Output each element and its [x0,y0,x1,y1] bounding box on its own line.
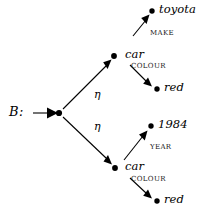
edge-label-year: YEAR [150,144,171,151]
edge-root-to-car-bottom [63,117,112,165]
node-label-car-bottom: car [125,161,144,173]
node-car-bottom [112,165,118,171]
graph-figure: B: toyota MAKE car COLOUR red η η 1984 Y… [0,0,200,219]
edge-label-colour-bottom: COLOUR [131,176,166,183]
node-red-bottom [154,198,159,203]
node-label-red-top: red [164,82,184,94]
edge-root-to-car-top [63,60,112,110]
node-label-red-bottom: red [164,194,184,206]
node-year-1984 [148,123,153,128]
node-red-top [154,86,159,91]
node-toyota [149,8,154,13]
edge-car-bottom-to-year [124,131,148,161]
edge-label-eta-bottom: η [94,121,101,132]
edge-label-eta-top: η [94,89,101,100]
edge-entry-arrow [33,108,58,119]
node-label-car-top: car [125,49,144,61]
node-label-toyota: toyota [159,4,196,16]
edge-label-make: MAKE [150,30,174,37]
edge-car-top-to-toyota [133,15,150,37]
edge-label-colour-top: COLOUR [131,63,166,70]
node-root [56,110,62,116]
root-label: B: [9,105,24,118]
node-label-year-1984: 1984 [158,119,188,131]
node-car-top [111,53,117,59]
